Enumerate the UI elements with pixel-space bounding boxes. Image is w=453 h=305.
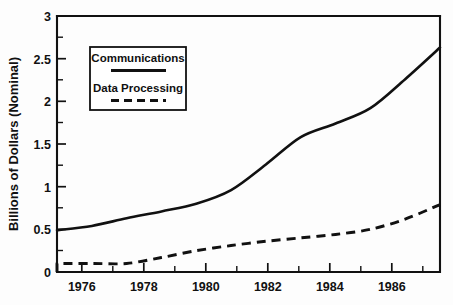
x-tick-label-1984: 1984: [316, 280, 344, 294]
y-tick-label-0: 0: [44, 266, 51, 280]
y-tick-label-2: 2: [44, 95, 51, 109]
y-tick-label-1p5: 1.5: [34, 138, 51, 152]
y-axis-title: Billions of Dollars (Nominal): [6, 57, 21, 231]
x-tick-labels: 1976 1978 1980 1982 1984 1986: [68, 280, 406, 294]
y-axis-ticks: [57, 16, 66, 272]
y-tick-label-3: 3: [44, 10, 51, 24]
y-tick-labels: 0 0.5 1 1.5 2 2.5 3: [34, 10, 51, 280]
x-tick-label-1980: 1980: [192, 280, 220, 294]
series-line-data-processing: [57, 205, 440, 272]
x-tick-label-1978: 1978: [130, 280, 158, 294]
line-chart-canvas: 0 0.5 1 1.5 2 2.5 3 1976 1978: [0, 0, 453, 305]
y-tick-label-2p5: 2.5: [34, 53, 51, 67]
legend-label-data-processing: Data Processing: [93, 82, 183, 94]
chart-legend: Communications Data Processing: [90, 47, 186, 110]
y-tick-label-0p5: 0.5: [34, 223, 51, 237]
x-tick-label-1982: 1982: [254, 280, 282, 294]
chart-figure: 0 0.5 1 1.5 2 2.5 3 1976 1978: [0, 0, 453, 305]
legend-label-communications: Communications: [91, 52, 184, 64]
x-axis-ticks: [82, 263, 423, 272]
x-tick-label-1986: 1986: [378, 280, 406, 294]
y-tick-label-1: 1: [44, 181, 51, 195]
x-tick-label-1976: 1976: [68, 280, 96, 294]
